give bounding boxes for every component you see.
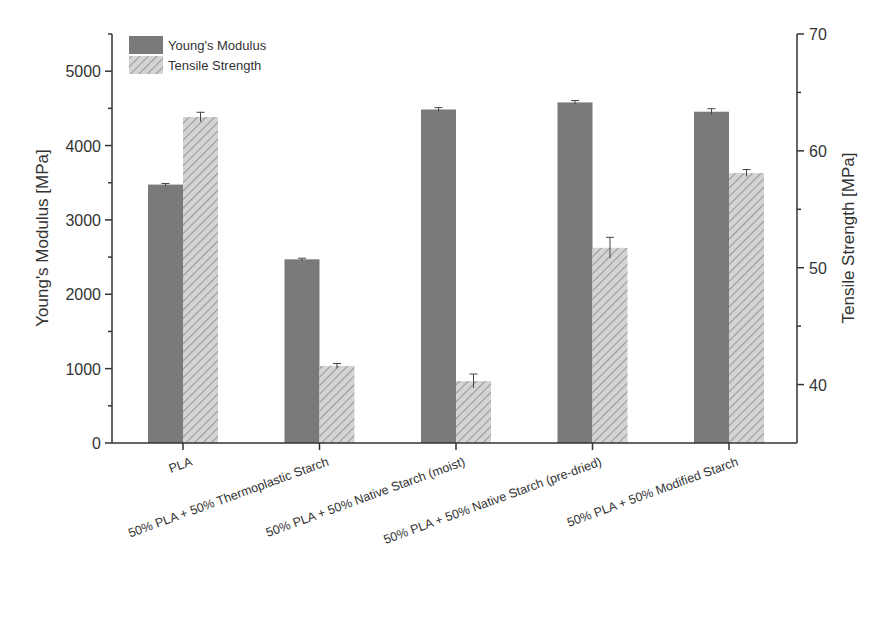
- x-axis-ticks: PLA50% PLA + 50% Thermoplastic Starch50%…: [126, 443, 740, 547]
- x-category-label: PLA: [167, 454, 195, 475]
- legend: Young's Modulus Tensile Strength: [129, 36, 267, 74]
- left-axis-title: Young's Modulus [MPa]: [33, 149, 52, 326]
- right-axis-title: Tensile Strength [MPa]: [839, 152, 858, 323]
- bar-youngs-modulus: [558, 102, 593, 443]
- right-tick-label: 50: [809, 260, 827, 277]
- bar-chart: 010002000300040005000 40506070 PLA50% PL…: [0, 0, 888, 623]
- bar-youngs-modulus: [694, 112, 729, 443]
- bar-youngs-modulus: [148, 185, 183, 443]
- bar-tensile-strength: [320, 366, 355, 443]
- bar-youngs-modulus: [421, 109, 456, 443]
- left-axis-ticks: 010002000300040005000: [65, 34, 112, 452]
- left-tick-label: 0: [92, 435, 101, 452]
- right-tick-label: 60: [809, 143, 827, 160]
- legend-swatch-youngs-modulus: [129, 36, 163, 54]
- legend-label-youngs-modulus: Young's Modulus: [168, 38, 267, 53]
- bar-tensile-strength: [593, 248, 628, 443]
- left-tick-label: 1000: [65, 361, 101, 378]
- right-tick-label: 40: [809, 377, 827, 394]
- legend-swatch-tensile-strength: [129, 56, 163, 74]
- right-axis-ticks: 40506070: [797, 26, 827, 394]
- left-tick-label: 4000: [65, 138, 101, 155]
- left-tick-label: 5000: [65, 63, 101, 80]
- bar-tensile-strength: [183, 117, 218, 443]
- legend-label-tensile-strength: Tensile Strength: [168, 58, 261, 73]
- bar-tensile-strength: [729, 173, 764, 443]
- bars-group: [148, 102, 764, 443]
- x-category-label: 50% PLA + 50% Native Starch (pre-dried): [382, 455, 604, 547]
- bar-youngs-modulus: [285, 259, 320, 443]
- bar-tensile-strength: [456, 381, 491, 443]
- right-tick-label: 70: [809, 26, 827, 43]
- left-tick-label: 2000: [65, 286, 101, 303]
- left-tick-label: 3000: [65, 212, 101, 229]
